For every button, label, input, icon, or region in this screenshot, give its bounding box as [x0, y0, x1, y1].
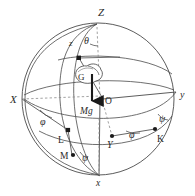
label-axis-y-body: y [179, 89, 185, 100]
diagram-canvas: Z z X x Y y O G K L M Mg θ φ φ ψ ψ [0, 0, 195, 196]
label-axis-Z: Z [98, 6, 105, 18]
marker-z-node [77, 56, 81, 60]
spinning-top-euler-angle-diagram: Z z X x Y y O G K L M Mg θ φ φ ψ ψ [0, 0, 195, 196]
label-angle-theta: θ [84, 35, 89, 46]
label-angle-psi-right: ψ [159, 113, 166, 124]
label-weight-Mg: Mg [79, 106, 93, 116]
label-center-of-mass-G: G [78, 72, 85, 82]
label-point-M: M [60, 151, 69, 161]
label-point-L: L [58, 135, 64, 145]
segment-L-to-M [68, 130, 72, 155]
dashed-axis-Z-vertical [97, 27, 100, 99]
label-axis-X: X [9, 93, 18, 105]
label-angle-phi-right: φ [129, 129, 135, 140]
marker-L [66, 128, 70, 132]
label-axis-Y: Y [107, 139, 114, 150]
dashed-axis-X-horizontal [22, 96, 100, 99]
label-axis-z-body: z [68, 38, 73, 48]
label-axis-x-body: x [95, 178, 101, 188]
marker-M [71, 153, 75, 157]
chord-z-to-parallel [79, 57, 120, 58]
axis-y-line [103, 92, 176, 99]
label-point-K: K [157, 134, 164, 144]
label-angle-phi-left: φ [40, 116, 46, 127]
marker-Y [110, 134, 114, 138]
label-origin-O: O [105, 96, 112, 106]
arc-theta [90, 44, 98, 46]
marker-K [153, 127, 157, 131]
label-angle-psi-bottom: ψ [82, 152, 89, 163]
